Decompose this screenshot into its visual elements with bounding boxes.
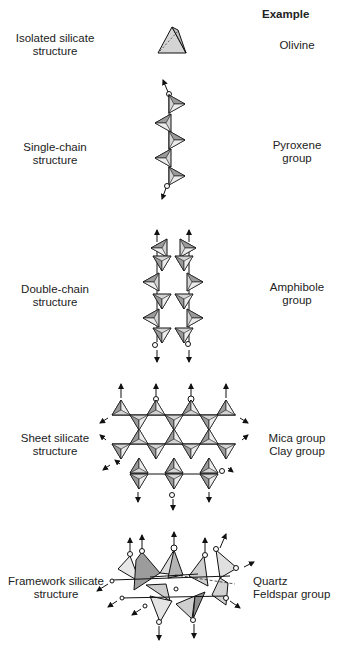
sheet-silicate-icon xyxy=(100,384,248,510)
single-chain-icon xyxy=(155,80,185,199)
silicate-diagrams xyxy=(0,0,340,656)
isolated-tetrahedron-icon xyxy=(158,27,186,53)
framework-silicate-icon xyxy=(97,532,254,640)
double-chain-icon xyxy=(143,230,203,362)
